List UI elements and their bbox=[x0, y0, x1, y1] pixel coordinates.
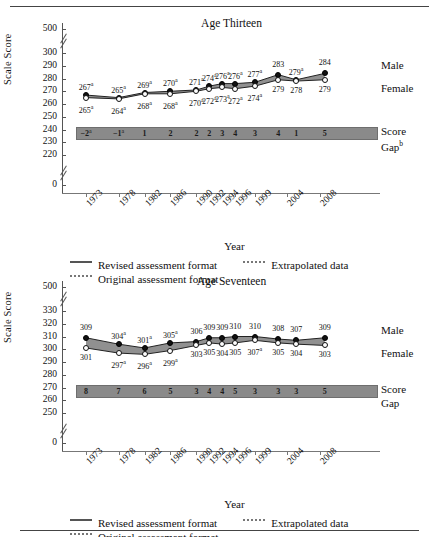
legend-item-extrapolated: Extrapolated data bbox=[243, 517, 348, 529]
data-label-male: 309 bbox=[216, 324, 228, 332]
plot-area: 5003303203103002902802702602500197319781… bbox=[62, 281, 374, 451]
legend-swatch-dotted-line-icon bbox=[243, 261, 265, 263]
data-label-male: 309 bbox=[80, 324, 92, 332]
score-gap-value: 5 bbox=[323, 387, 327, 396]
score-gap-value: 3 bbox=[220, 129, 224, 138]
y-tick-label: 250 bbox=[43, 408, 57, 418]
y-tick-label: 300 bbox=[43, 345, 57, 355]
data-label-female: 305 bbox=[272, 349, 284, 357]
score-gap-value: 4 bbox=[233, 129, 237, 138]
legend-item-original: Original assessment format bbox=[70, 531, 218, 537]
score-gap-value: 8 bbox=[84, 387, 88, 396]
data-label-female: 304 bbox=[290, 350, 302, 358]
series-label-male: Male bbox=[381, 324, 404, 336]
data-point-female bbox=[193, 88, 199, 94]
data-label-female: 268a bbox=[137, 100, 152, 111]
x-axis-title: Year bbox=[0, 498, 439, 510]
data-label-male: 305a bbox=[163, 329, 178, 340]
data-point-female bbox=[322, 342, 328, 348]
y-tick-label: 500 bbox=[43, 24, 57, 34]
y-tick-label: 0 bbox=[52, 180, 57, 190]
data-label-male: 308 bbox=[272, 325, 284, 333]
y-tick-label: 330 bbox=[43, 306, 57, 316]
y-tick-label: 500 bbox=[43, 282, 57, 292]
y-tick-label: 270 bbox=[43, 87, 57, 97]
series-label-female: Female bbox=[381, 347, 413, 359]
data-point-male bbox=[232, 334, 238, 340]
score-gap-value: 3 bbox=[253, 387, 257, 396]
data-label-female: 272a bbox=[228, 95, 243, 106]
data-point-male bbox=[83, 335, 89, 341]
data-label-male: 301a bbox=[137, 334, 152, 345]
data-point-female bbox=[252, 337, 258, 343]
data-label-male: 276a bbox=[228, 70, 243, 81]
score-gap-value: 4 bbox=[276, 129, 280, 138]
legend-swatch-dotted-line-icon-2 bbox=[70, 533, 92, 535]
data-label-female: 304 bbox=[216, 350, 228, 358]
y-tick-label: 280 bbox=[43, 74, 57, 84]
score-gap-label-2: Gap bbox=[381, 397, 399, 409]
score-gap-bar bbox=[76, 385, 378, 398]
score-gap-value: 1 bbox=[294, 129, 298, 138]
score-gap-value: 2 bbox=[194, 129, 198, 138]
y-tick-label: 260 bbox=[43, 396, 57, 406]
y-tick-label: 290 bbox=[43, 357, 57, 367]
data-point-female bbox=[116, 350, 122, 356]
data-label-male: 310 bbox=[229, 323, 241, 331]
y-tick-label: 310 bbox=[43, 332, 57, 342]
data-label-male: 309 bbox=[319, 324, 331, 332]
data-point-female bbox=[142, 91, 148, 97]
data-point-female bbox=[206, 86, 212, 92]
legend-swatch-solid-line-icon bbox=[70, 519, 92, 521]
x-axis-title: Year bbox=[0, 240, 439, 252]
legend-swatch-dotted-line-icon bbox=[243, 519, 265, 521]
series-label-male: Male bbox=[381, 59, 404, 71]
data-label-female: 303 bbox=[190, 351, 202, 359]
data-label-male: 267a bbox=[79, 81, 94, 92]
y-tick-label: 320 bbox=[43, 319, 57, 329]
score-gap-label: Score bbox=[381, 125, 406, 137]
data-point-female bbox=[219, 341, 225, 347]
score-gap-value: 4 bbox=[207, 387, 211, 396]
chart-legend: Revised assessment formatExtrapolated da… bbox=[70, 517, 348, 537]
data-label-male: 269a bbox=[137, 79, 152, 90]
score-gap-value: 7 bbox=[117, 387, 121, 396]
score-gap-value: 5 bbox=[323, 129, 327, 138]
plot-area: 5003002902802702602502402302200197319781… bbox=[62, 23, 374, 193]
score-gap-value: 5 bbox=[168, 387, 172, 396]
data-label-female: 307a bbox=[248, 346, 263, 357]
score-gap-value: 3 bbox=[253, 129, 257, 138]
data-label-female: 296a bbox=[137, 360, 152, 371]
data-point-female bbox=[275, 340, 281, 346]
y-tick-label: 290 bbox=[43, 61, 57, 71]
data-point-male bbox=[219, 335, 225, 341]
legend-label-extrapolated: Extrapolated data bbox=[271, 517, 348, 529]
data-point-female bbox=[293, 341, 299, 347]
data-label-male: 283 bbox=[272, 61, 284, 69]
y-axis-title: Scale Score bbox=[2, 34, 13, 85]
score-gap-value: 2 bbox=[168, 129, 172, 138]
data-label-male: 310 bbox=[249, 323, 261, 331]
data-label-female: 279 bbox=[319, 86, 331, 94]
data-label-male: 309 bbox=[203, 324, 215, 332]
score-gap-value: 1 bbox=[143, 129, 147, 138]
data-point-female bbox=[193, 342, 199, 348]
series-label-female: Female bbox=[381, 82, 413, 94]
score-gap-value: −2a bbox=[80, 128, 91, 139]
legend-label-revised: Revised assessment format bbox=[98, 517, 217, 529]
y-tick-label: 270 bbox=[43, 383, 57, 393]
chart-panel-age-thirteen: Age ThirteenScale Score50030029028027026… bbox=[0, 7, 439, 265]
data-label-male: 277a bbox=[248, 68, 263, 79]
data-point-female bbox=[206, 340, 212, 346]
data-point-male bbox=[322, 335, 328, 341]
score-gap-value: −1a bbox=[113, 128, 124, 139]
data-label-female: 305 bbox=[203, 349, 215, 357]
data-point-female bbox=[293, 78, 299, 84]
data-point-male bbox=[322, 70, 328, 76]
score-gap-value: 6 bbox=[143, 387, 147, 396]
score-gap-label-2: Gapb bbox=[381, 139, 403, 153]
data-label-male: 306 bbox=[190, 328, 202, 336]
y-axis-title: Scale Score bbox=[2, 292, 13, 343]
data-label-male: 279a bbox=[289, 66, 304, 77]
data-label-male: 270a bbox=[163, 77, 178, 88]
